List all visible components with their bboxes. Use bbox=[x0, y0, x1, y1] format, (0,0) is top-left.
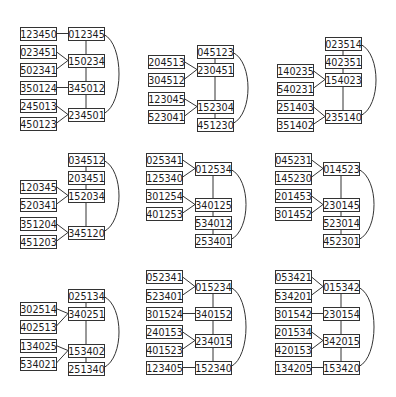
diagram-panel-4: 1203455203413512044512030345122034511520… bbox=[20, 154, 119, 249]
edge-line bbox=[56, 346, 68, 351]
permutation-node: 345012 bbox=[68, 82, 105, 95]
diagram-panel-9: 0534215342013015422015344201531342050153… bbox=[275, 271, 374, 375]
permutation-node: 015234 bbox=[195, 281, 232, 294]
diagram-panel-5: 0253411253403012544012530125343401255340… bbox=[146, 154, 246, 248]
node-label: 152340 bbox=[195, 363, 232, 374]
edge-line bbox=[182, 287, 195, 296]
permutation-node: 234015 bbox=[195, 335, 232, 348]
permutation-node: 150234 bbox=[68, 55, 105, 68]
permutation-node: 540231 bbox=[277, 83, 314, 96]
node-label: 234015 bbox=[195, 336, 232, 347]
node-label: 304512 bbox=[148, 75, 185, 86]
node-label: 023451 bbox=[20, 47, 57, 58]
edge-line bbox=[311, 196, 323, 205]
node-label: 014523 bbox=[323, 164, 360, 175]
permutation-node: 502341 bbox=[20, 64, 57, 77]
node-label: 034512 bbox=[68, 155, 105, 166]
node-label: 140235 bbox=[277, 66, 314, 77]
edge-line bbox=[184, 70, 197, 80]
edge-line bbox=[56, 351, 68, 364]
permutation-node: 154023 bbox=[325, 74, 362, 87]
permutation-node: 301452 bbox=[275, 208, 312, 221]
node-label: 523014 bbox=[323, 218, 360, 229]
nodes: 0523415234013015242401534015231234050152… bbox=[146, 271, 232, 375]
edge-line bbox=[56, 196, 68, 205]
permutation-node: 450123 bbox=[20, 118, 57, 131]
node-label: 301542 bbox=[275, 309, 312, 320]
permutation-node: 342015 bbox=[323, 335, 360, 348]
node-label: 234501 bbox=[68, 110, 105, 121]
edge-line bbox=[311, 341, 323, 350]
permutation-node: 012534 bbox=[195, 163, 232, 176]
edge-line bbox=[313, 117, 325, 125]
node-label: 235140 bbox=[325, 112, 362, 123]
permutation-node: 201453 bbox=[275, 190, 312, 203]
permutation-node: 203451 bbox=[68, 172, 105, 185]
permutation-node: 034512 bbox=[68, 154, 105, 167]
node-label: 125340 bbox=[146, 173, 183, 184]
permutation-node: 351204 bbox=[20, 218, 57, 231]
permutation-node: 240153 bbox=[146, 326, 183, 339]
permutation-node: 301524 bbox=[146, 308, 183, 321]
node-label: 450123 bbox=[20, 119, 57, 130]
node-label: 123450 bbox=[20, 29, 57, 40]
node-label: 053421 bbox=[275, 272, 312, 283]
node-label: 402351 bbox=[325, 57, 362, 68]
permutation-node: 401253 bbox=[146, 208, 183, 221]
node-label: 251403 bbox=[277, 102, 314, 113]
permutation-node: 340125 bbox=[195, 199, 232, 212]
node-label: 451203 bbox=[20, 237, 57, 248]
permutation-node: 451203 bbox=[20, 236, 57, 249]
permutation-node: 140235 bbox=[277, 65, 314, 78]
permutation-node: 251340 bbox=[68, 363, 105, 376]
arc-edge bbox=[359, 170, 374, 240]
permutation-node: 123405 bbox=[146, 362, 183, 375]
edge-line bbox=[56, 61, 68, 70]
node-label: 012345 bbox=[68, 29, 105, 40]
permutation-node: 045123 bbox=[197, 46, 234, 59]
node-label: 120345 bbox=[20, 182, 57, 193]
permutation-node: 534021 bbox=[20, 358, 57, 371]
edge-line bbox=[311, 332, 323, 341]
permutation-node: 451230 bbox=[197, 119, 234, 132]
edge-line bbox=[56, 115, 68, 124]
permutation-node: 125340 bbox=[146, 172, 183, 185]
permutation-node: 025341 bbox=[146, 154, 183, 167]
permutation-node: 014523 bbox=[323, 163, 360, 176]
edge-line bbox=[182, 169, 195, 178]
diagram-panel-3: 1402355402312514033514020235144023511540… bbox=[277, 38, 376, 132]
node-label: 253401 bbox=[195, 236, 232, 247]
permutation-node: 351402 bbox=[277, 119, 314, 132]
permutation-node: 204513 bbox=[148, 56, 185, 69]
edge-line bbox=[182, 205, 195, 214]
node-label: 523041 bbox=[148, 112, 185, 123]
permutation-node: 253401 bbox=[195, 235, 232, 248]
node-label: 204513 bbox=[148, 57, 185, 68]
permutation-node: 012345 bbox=[68, 28, 105, 41]
node-label: 201453 bbox=[275, 191, 312, 202]
node-label: 025134 bbox=[68, 291, 105, 302]
node-label: 015234 bbox=[195, 282, 232, 293]
edge-line bbox=[313, 71, 325, 80]
edge-line bbox=[182, 196, 195, 205]
permutation-node: 534012 bbox=[195, 217, 232, 230]
edge-line bbox=[182, 332, 195, 341]
permutation-node: 152304 bbox=[197, 101, 234, 114]
node-label: 203451 bbox=[68, 173, 105, 184]
edge-line bbox=[56, 314, 68, 327]
permutation-node: 230154 bbox=[323, 308, 360, 321]
node-label: 045123 bbox=[197, 47, 234, 58]
node-label: 401523 bbox=[146, 345, 183, 356]
permutation-node: 145230 bbox=[275, 172, 312, 185]
node-label: 152304 bbox=[197, 102, 234, 113]
node-label: 153420 bbox=[323, 363, 360, 374]
node-label: 301452 bbox=[275, 209, 312, 220]
edge-line bbox=[56, 309, 68, 314]
permutation-node: 015342 bbox=[323, 281, 360, 294]
nodes: 3025144025131340255340210251343402511534… bbox=[20, 290, 105, 376]
permutation-node: 402351 bbox=[325, 56, 362, 69]
permutation-node: 523014 bbox=[323, 217, 360, 230]
nodes: 2045133045121230455230410451232304511523… bbox=[148, 46, 234, 132]
node-label: 123045 bbox=[148, 94, 185, 105]
edge-line bbox=[184, 99, 197, 107]
